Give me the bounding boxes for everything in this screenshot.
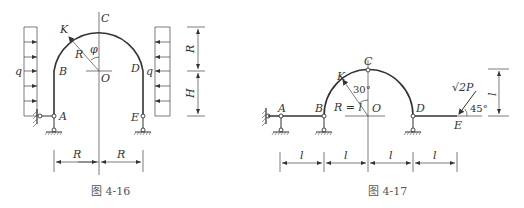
label-dim-l-3: l — [389, 149, 393, 162]
bottom-dimension — [54, 150, 143, 172]
figure-4-16: C K R φ B O D q q A E R R R H 图 4-16 — [15, 12, 205, 198]
label-R-eq-l: R = l — [333, 101, 362, 114]
label-force: √2P — [452, 81, 474, 94]
label-K: K — [336, 70, 346, 83]
diagram-canvas: C K R φ B O D q q A E R R R H 图 4-16 — [0, 0, 524, 208]
angle-45-arc — [465, 109, 467, 116]
pin-support-D — [404, 118, 421, 135]
label-R: R — [74, 48, 83, 61]
label-dim-l-1: l — [300, 149, 304, 162]
phi-arc — [91, 57, 99, 60]
arch-frame — [54, 33, 143, 116]
label-30deg: 30° — [353, 84, 371, 95]
label-E: E — [130, 111, 139, 124]
label-D: D — [415, 102, 425, 115]
figure-4-17: C K 30° R = l O A B D E √2P 45° l l l l … — [262, 55, 509, 198]
left-wall-support — [33, 109, 54, 127]
label-45deg: 45° — [470, 103, 488, 114]
label-E: E — [453, 119, 462, 132]
label-dim-R-left: R — [72, 148, 81, 161]
label-dim-R-vertical: R — [184, 45, 197, 54]
label-dim-l-4: l — [433, 149, 437, 162]
label-A: A — [277, 102, 286, 115]
pin-support-B — [315, 118, 332, 135]
label-A: A — [58, 110, 67, 123]
label-dim-l-vertical: l — [486, 92, 499, 96]
label-O: O — [372, 102, 381, 115]
pin-E — [141, 114, 145, 118]
label-dim-l-2: l — [344, 149, 348, 162]
left-distributed-load — [24, 27, 37, 116]
label-O: O — [101, 72, 110, 85]
bottom-dimension — [280, 152, 457, 172]
label-B: B — [314, 102, 323, 115]
left-wall-support — [262, 108, 270, 126]
label-C: C — [101, 12, 110, 25]
pin-A — [52, 114, 56, 118]
label-K: K — [59, 23, 69, 36]
label-q-right: q — [146, 65, 153, 78]
right-distributed-load — [155, 27, 170, 116]
label-D: D — [130, 62, 140, 75]
caption-4-17: 图 4-17 — [368, 185, 407, 198]
pin-D — [411, 114, 415, 118]
caption-4-16: 图 4-16 — [91, 185, 130, 198]
pin-support-A — [272, 118, 289, 135]
label-dim-H-vertical: H — [184, 88, 197, 99]
label-phi: φ — [90, 43, 98, 56]
right-dimension — [187, 27, 205, 116]
label-C: C — [364, 55, 373, 68]
label-B: B — [58, 65, 67, 78]
pin-C — [366, 68, 370, 72]
label-q-left: q — [15, 65, 22, 78]
label-dim-R-right: R — [116, 148, 125, 161]
